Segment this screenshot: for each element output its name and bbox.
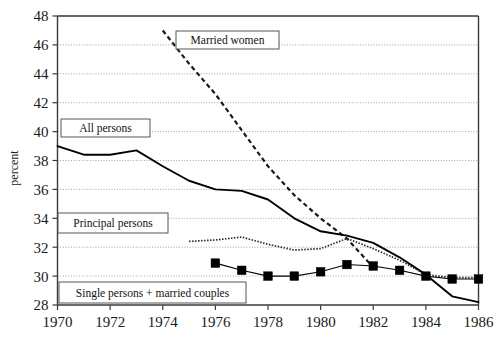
data-marker bbox=[211, 259, 220, 268]
callout-label: Principal persons bbox=[73, 217, 153, 230]
x-tick-label-1984: 1984 bbox=[411, 314, 442, 330]
callout-married-women: Married women bbox=[176, 31, 279, 49]
y-tick-label-40: 40 bbox=[34, 124, 49, 140]
data-marker bbox=[395, 266, 404, 275]
y-axis-label: percent bbox=[7, 150, 21, 186]
y-axis-ticks: 2830323436384042444648 bbox=[34, 8, 58, 313]
axes bbox=[58, 16, 479, 305]
data-marker bbox=[264, 272, 273, 281]
data-marker bbox=[448, 275, 457, 284]
callout-principal-persons: Principal persons bbox=[58, 213, 168, 233]
series-line-married-women bbox=[163, 30, 374, 267]
data-marker bbox=[369, 262, 378, 271]
data-marker bbox=[290, 272, 299, 281]
y-tick-label-32: 32 bbox=[34, 240, 49, 256]
y-tick-label-38: 38 bbox=[34, 153, 49, 169]
chart-canvas: 2830323436384042444648 19701972197419761… bbox=[0, 0, 501, 338]
x-tick-label-1976: 1976 bbox=[200, 314, 231, 330]
y-tick-label-48: 48 bbox=[34, 8, 49, 24]
callout-single-persons-married-couples: Single persons + married couples bbox=[59, 282, 246, 303]
x-tick-label-1982: 1982 bbox=[358, 314, 388, 330]
x-tick-label-1970: 1970 bbox=[43, 314, 73, 330]
y-tick-label-44: 44 bbox=[34, 66, 50, 82]
callout-label: All persons bbox=[79, 122, 132, 135]
data-marker bbox=[343, 260, 352, 269]
y-tick-label-28: 28 bbox=[34, 297, 49, 313]
x-tick-label-1978: 1978 bbox=[253, 314, 283, 330]
y-tick-label-46: 46 bbox=[34, 37, 50, 53]
series-callouts: Married womenAll personsPrincipal person… bbox=[58, 31, 279, 303]
data-marker bbox=[474, 275, 483, 284]
y-tick-label-42: 42 bbox=[34, 95, 49, 111]
x-tick-label-1974: 1974 bbox=[148, 314, 179, 330]
callout-label: Single persons + married couples bbox=[76, 287, 230, 300]
y-tick-label-36: 36 bbox=[34, 182, 50, 198]
x-tick-label-1980: 1980 bbox=[306, 314, 336, 330]
y-tick-label-30: 30 bbox=[34, 269, 49, 285]
callout-all-persons: All persons bbox=[61, 119, 150, 137]
data-marker bbox=[237, 266, 246, 275]
x-tick-label-1986: 1986 bbox=[464, 314, 495, 330]
data-marker bbox=[422, 272, 431, 281]
x-axis-ticks: 197019721974197619781980198219841986 bbox=[43, 305, 495, 330]
chart-figure: 2830323436384042444648 19701972197419761… bbox=[0, 0, 501, 338]
x-tick-label-1972: 1972 bbox=[95, 314, 125, 330]
callout-label: Married women bbox=[191, 34, 265, 46]
series-line-principal-persons bbox=[189, 237, 478, 277]
y-tick-label-34: 34 bbox=[34, 211, 50, 227]
data-series bbox=[58, 30, 483, 302]
gridlines bbox=[58, 16, 479, 276]
data-marker bbox=[316, 267, 325, 276]
